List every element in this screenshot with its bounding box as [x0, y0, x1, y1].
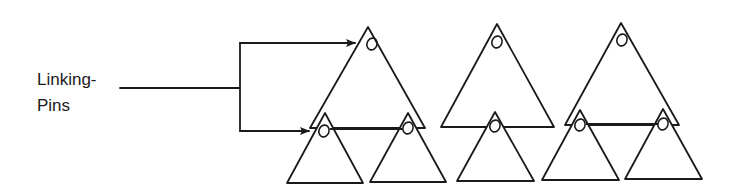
subordinate-triangle-3: [457, 112, 534, 181]
subordinate-triangle-2: [370, 113, 446, 182]
linking-pin-icon-superior-1: [365, 37, 379, 52]
superior-triangle-2: [441, 24, 554, 127]
subordinate-triangle-4: [542, 110, 619, 180]
subordinate-triangle-1: [287, 113, 363, 183]
linking-pin-diagram: [0, 0, 741, 188]
subordinate-triangle-5: [625, 109, 702, 179]
linking-pin-icon-superior-2: [490, 35, 504, 50]
